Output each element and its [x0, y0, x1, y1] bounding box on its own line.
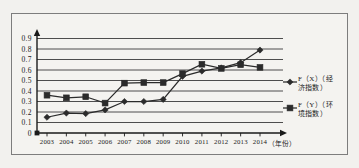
- legend-item-fy-line2: 境指数）: [298, 110, 327, 118]
- series-layer: [44, 47, 263, 120]
- y-tick-label: 0.4: [12, 87, 32, 96]
- y-tick-label: 0.3: [12, 97, 32, 106]
- x-axis-title: （年份）: [268, 138, 296, 148]
- y-tick-label: 0.6: [12, 66, 32, 75]
- y-tick-label: 0: [12, 129, 32, 138]
- y-tick-label: 0.7: [12, 55, 32, 64]
- legend-item-fx-label: F（X）（经 济指数）: [298, 75, 354, 92]
- legend-item-fx-line1: F（X）（经: [298, 75, 333, 83]
- legend-item-fy-label: F（Y）（环 境指数）: [298, 101, 354, 118]
- y-tick-label: 0.1: [12, 118, 32, 127]
- legend-item-fy-line1: F（Y）（环: [298, 101, 333, 109]
- y-tick-label: 0.2: [12, 108, 32, 117]
- y-tick-label: 0.5: [12, 76, 32, 85]
- y-tick-label: 0.8: [12, 45, 32, 54]
- series-fy: [44, 61, 263, 106]
- legend-markers: [283, 79, 297, 111]
- y-tick-label: 0.9: [12, 34, 32, 43]
- legend-item-fx-line2: 济指数）: [298, 84, 327, 92]
- series-fx: [44, 47, 263, 120]
